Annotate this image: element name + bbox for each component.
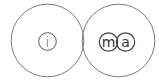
right-outer-circle [82,4,155,77]
logo-graphic: i m a [0,0,159,82]
letter-i: i [46,34,50,50]
letter-m: m [102,34,116,50]
letter-a: a [121,34,130,50]
logo: i m a [0,0,159,82]
